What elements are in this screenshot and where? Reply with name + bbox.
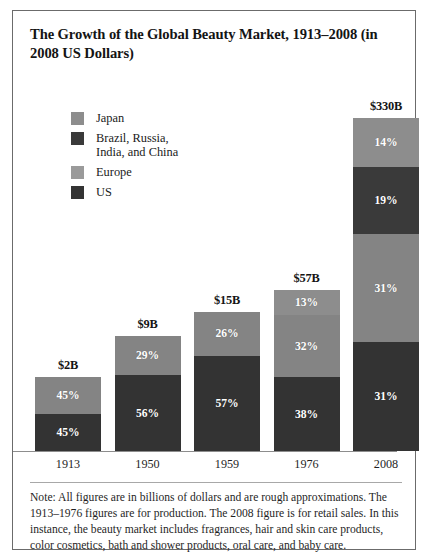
bar-segment-2008-us: 31% <box>353 342 419 451</box>
x-axis-label-1950: 1950 <box>115 457 181 472</box>
bar-segment-2008-japan: 14% <box>353 118 419 167</box>
x-axis-label-2008: 2008 <box>353 457 419 472</box>
bar-segment-label: 31% <box>375 390 398 403</box>
bar-stack-2008: 14%19%31%31% <box>353 118 419 451</box>
chart-plot-area: $2B45%45%$9B29%56%$15B26%57%$57B13%32%38… <box>35 99 419 451</box>
x-axis-label-1959: 1959 <box>194 457 260 472</box>
bar-segment-label: 26% <box>216 327 239 340</box>
bar-total-label-1959: $15B <box>194 293 260 308</box>
bar-segment-label: 56% <box>136 407 159 420</box>
bar-segment-label: 31% <box>375 282 398 295</box>
bar-segment-1976-europe: 32% <box>274 315 340 377</box>
bar-stack-1950: 29%56% <box>115 336 181 451</box>
figure-title: The Growth of the Global Beauty Market, … <box>30 25 402 62</box>
x-axis-label-1976: 1976 <box>274 457 340 472</box>
bar-segment-label: 32% <box>295 340 318 353</box>
bar-segment-1959-us: 57% <box>194 356 260 451</box>
note-separator <box>30 482 402 483</box>
bar-segment-label: 19% <box>375 194 398 207</box>
bar-segment-1959-europe: 26% <box>194 312 260 356</box>
figure-note: Note: All figures are in billions of dol… <box>30 490 406 553</box>
bar-group-1950: $9B29%56% <box>115 99 181 451</box>
x-axis-line <box>13 451 397 452</box>
bar-segment-label: 13% <box>295 296 318 309</box>
bar-total-label-2008: $330B <box>353 99 419 114</box>
bar-segment-label: 29% <box>136 349 159 362</box>
bar-segment-label: 45% <box>57 389 80 402</box>
x-axis-labels: 19131950195919762008 <box>35 457 419 472</box>
x-axis-label-1913: 1913 <box>35 457 101 472</box>
bar-segment-1976-japan: 13% <box>274 290 340 315</box>
bar-total-label-1913: $2B <box>35 358 101 373</box>
bar-segment-1950-us: 56% <box>115 375 181 451</box>
figure-frame: The Growth of the Global Beauty Market, … <box>12 10 416 550</box>
bar-group-1976: $57B13%32%38% <box>274 99 340 451</box>
bar-segment-label: 14% <box>375 136 398 149</box>
bar-segment-label: 45% <box>57 426 80 439</box>
bar-segment-1913-us: 45% <box>35 414 101 451</box>
bar-stack-1913: 45%45% <box>35 377 101 451</box>
bar-segment-2008-europe: 31% <box>353 234 419 343</box>
bar-stack-1976: 13%32%38% <box>274 290 340 451</box>
bar-total-label-1976: $57B <box>274 271 340 286</box>
bar-segment-label: 57% <box>216 397 239 410</box>
bar-total-label-1950: $9B <box>115 317 181 332</box>
bar-segment-1950-europe: 29% <box>115 336 181 375</box>
bar-group-1913: $2B45%45% <box>35 99 101 451</box>
bar-group-1959: $15B26%57% <box>194 99 260 451</box>
bar-stack-1959: 26%57% <box>194 312 260 451</box>
bar-groups: $2B45%45%$9B29%56%$15B26%57%$57B13%32%38… <box>35 99 419 451</box>
bar-group-2008: $330B14%19%31%31% <box>353 99 419 451</box>
bar-segment-2008-bric: 19% <box>353 167 419 234</box>
bar-segment-1976-us: 38% <box>274 377 340 451</box>
bar-segment-1913-europe: 45% <box>35 377 101 414</box>
bar-segment-label: 38% <box>295 408 318 421</box>
